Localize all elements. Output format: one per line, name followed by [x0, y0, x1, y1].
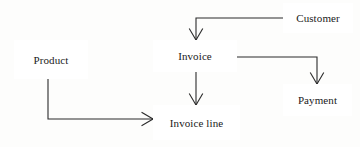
- crowsfoot-icon-product-invoiceline-leg1: [142, 113, 153, 120]
- crowsfoot-icon-invoice-payment-leg2: [317, 73, 324, 84]
- entity-box-customer[interactable]: Customer: [283, 3, 353, 33]
- entity-label-payment: Payment: [298, 94, 337, 106]
- crowsfoot-icon-customer-invoice-leg2: [196, 29, 203, 40]
- crowsfoot-icon-invoice-invoiceline-leg2: [196, 94, 203, 105]
- crowsfoot-icon-customer-invoice-leg1: [190, 29, 197, 40]
- entity-box-invoice-line[interactable]: Invoice line: [153, 105, 240, 140]
- connector-customer-invoice[interactable]: [196, 18, 283, 40]
- crowsfoot-icon-invoice-payment-leg1: [311, 73, 318, 84]
- entity-label-invoice-line: Invoice line: [170, 117, 223, 129]
- entity-label-product: Product: [34, 54, 69, 66]
- connector-product-invoiceline[interactable]: [48, 79, 153, 119]
- crowsfoot-icon-invoice-invoiceline-leg1: [190, 94, 197, 105]
- entity-box-payment[interactable]: Payment: [283, 84, 352, 116]
- entity-label-customer: Customer: [296, 12, 340, 24]
- entity-label-invoice: Invoice: [178, 50, 212, 62]
- connector-invoice-payment[interactable]: [237, 57, 317, 84]
- entity-box-product[interactable]: Product: [14, 40, 88, 79]
- crowsfoot-icon-product-invoiceline-leg2: [142, 119, 153, 126]
- entity-box-invoice[interactable]: Invoice: [153, 40, 237, 72]
- er-diagram-canvas: ProductInvoiceInvoice lineCustomerPaymen…: [0, 0, 360, 147]
